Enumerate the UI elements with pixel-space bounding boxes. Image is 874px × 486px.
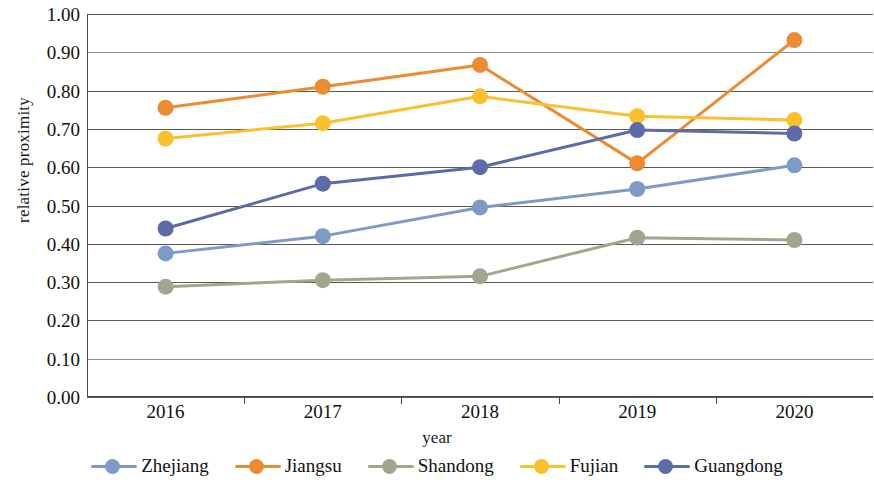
- y-axis-tick-label: 0.90: [18, 43, 80, 62]
- legend-label: Fujian: [570, 455, 619, 477]
- legend-item-fujian[interactable]: Fujian: [520, 455, 619, 477]
- data-point-guangdong-2017[interactable]: [315, 176, 331, 192]
- legend-label: Zhejiang: [141, 455, 209, 477]
- x-axis-tick: [559, 397, 560, 404]
- x-axis-tick-label: 2018: [420, 401, 540, 423]
- y-axis-tick-label: 0.00: [18, 388, 80, 407]
- legend-item-guangdong[interactable]: Guangdong: [644, 455, 783, 477]
- y-axis-tick-label: 0.20: [18, 311, 80, 330]
- legend-label: Shandong: [418, 455, 494, 477]
- x-axis-tick: [401, 397, 402, 404]
- x-axis-tick-label: 2016: [106, 401, 226, 423]
- legend-swatch-icon: [235, 458, 281, 474]
- legend-item-shandong[interactable]: Shandong: [368, 455, 494, 477]
- y-axis-tick-label: 0.70: [18, 120, 80, 139]
- data-point-shandong-2016[interactable]: [158, 279, 174, 295]
- gridline: [87, 397, 873, 398]
- x-axis-tick: [244, 397, 245, 404]
- data-point-fujian-2016[interactable]: [158, 130, 174, 146]
- series-lines: [87, 14, 873, 397]
- x-axis-tick-label: 2019: [577, 401, 697, 423]
- legend-swatch-icon: [91, 458, 137, 474]
- data-point-guangdong-2019[interactable]: [629, 122, 645, 138]
- data-point-shandong-2017[interactable]: [315, 272, 331, 288]
- data-point-zhejiang-2019[interactable]: [629, 181, 645, 197]
- data-point-jiangsu-2017[interactable]: [315, 79, 331, 95]
- y-axis-tick-label: 0.60: [18, 158, 80, 177]
- legend-item-zhejiang[interactable]: Zhejiang: [91, 455, 209, 477]
- data-point-shandong-2020[interactable]: [786, 232, 802, 248]
- x-axis-tick-label: 2017: [263, 401, 383, 423]
- data-point-jiangsu-2016[interactable]: [158, 100, 174, 116]
- data-point-jiangsu-2020[interactable]: [786, 32, 802, 48]
- data-point-fujian-2018[interactable]: [472, 88, 488, 104]
- data-point-shandong-2018[interactable]: [472, 268, 488, 284]
- legend-swatch-icon: [644, 458, 690, 474]
- data-point-guangdong-2020[interactable]: [786, 125, 802, 141]
- chart-legend: ZhejiangJiangsuShandongFujianGuangdong: [0, 455, 874, 477]
- data-point-guangdong-2018[interactable]: [472, 159, 488, 175]
- legend-swatch-icon: [520, 458, 566, 474]
- legend-swatch-icon: [368, 458, 414, 474]
- data-point-zhejiang-2017[interactable]: [315, 228, 331, 244]
- x-axis-title: year: [0, 428, 874, 448]
- y-axis-tick-label: 0.80: [18, 82, 80, 101]
- legend-label: Guangdong: [694, 455, 783, 477]
- x-axis-tick: [716, 397, 717, 404]
- data-point-zhejiang-2016[interactable]: [158, 245, 174, 261]
- y-axis-tick-label: 0.30: [18, 273, 80, 292]
- line-chart: relative proximity 1.000.900.800.700.600…: [0, 0, 874, 486]
- y-axis-tick-label: 1.00: [18, 5, 80, 24]
- data-point-zhejiang-2018[interactable]: [472, 199, 488, 215]
- y-axis-tick-label: 0.50: [18, 197, 80, 216]
- data-point-guangdong-2016[interactable]: [158, 220, 174, 236]
- data-point-fujian-2017[interactable]: [315, 115, 331, 131]
- y-axis-tick-labels: 1.000.900.800.700.600.500.400.300.200.10…: [8, 0, 80, 486]
- y-axis-tick-label: 0.10: [18, 350, 80, 369]
- plot-area: [87, 14, 873, 397]
- x-axis-tick-label: 2020: [734, 401, 854, 423]
- legend-item-jiangsu[interactable]: Jiangsu: [235, 455, 342, 477]
- y-axis-tick-label: 0.40: [18, 235, 80, 254]
- data-point-zhejiang-2020[interactable]: [786, 157, 802, 173]
- legend-label: Jiangsu: [285, 455, 342, 477]
- data-point-jiangsu-2019[interactable]: [629, 155, 645, 171]
- data-point-jiangsu-2018[interactable]: [472, 57, 488, 73]
- data-point-fujian-2019[interactable]: [629, 108, 645, 124]
- data-point-shandong-2019[interactable]: [629, 230, 645, 246]
